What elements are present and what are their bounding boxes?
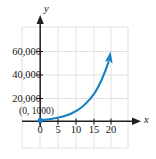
y-intercept-label: (0, 1000) [19,107,54,117]
y-intercept-marker [38,118,43,123]
x-axis-name: x [144,115,149,126]
x-tick-label-0: 0 [34,125,46,136]
y-tick-label-20000: 20,000 [12,94,41,105]
exponential-growth-figure: 60,000 40,000 20,000 0 5 10 15 20 y x (0… [0,0,156,159]
x-tick-label-15: 15 [87,125,101,136]
x-tick-label-20: 20 [104,125,118,136]
y-tick-label-40000: 40,000 [12,70,41,81]
x-tick-label-10: 10 [69,125,83,136]
x-tick-label-5: 5 [52,125,64,136]
y-tick-label-60000: 60,000 [12,47,41,58]
y-axis-name: y [44,4,49,15]
